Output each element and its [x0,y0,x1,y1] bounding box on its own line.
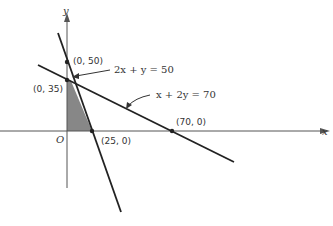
leader-x-2y [128,95,150,106]
leader-2x-y [76,70,110,76]
origin-label: O [56,134,64,145]
x-axis-label: x [322,126,328,137]
equation-x-2y-70: x + 2y = 70 [156,89,216,100]
label-70-0: (70, 0) [176,117,206,127]
point-0-35 [65,78,69,82]
point-70-0 [170,129,174,133]
point-25-0 [90,129,94,133]
point-0-50 [65,60,69,64]
diagram-canvas: y x O (0, 50) (0, 35) (25, 0) (70, 0) 2x… [0,0,333,226]
y-axis-label: y [62,5,69,16]
label-25-0: (25, 0) [101,136,131,146]
label-0-50: (0, 50) [73,56,103,66]
label-0-35: (0, 35) [33,84,63,94]
feasible-region [67,80,92,131]
equation-2x-y-50: 2x + y = 50 [114,64,174,75]
